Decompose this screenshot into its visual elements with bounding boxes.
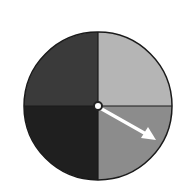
section-top-right: [98, 32, 172, 106]
pointer-hub: [94, 102, 102, 110]
section-bottom-left: [24, 106, 98, 180]
spinner-diagram: [0, 0, 184, 181]
section-top-left: [24, 32, 98, 106]
section-bottom-right: [98, 106, 172, 180]
